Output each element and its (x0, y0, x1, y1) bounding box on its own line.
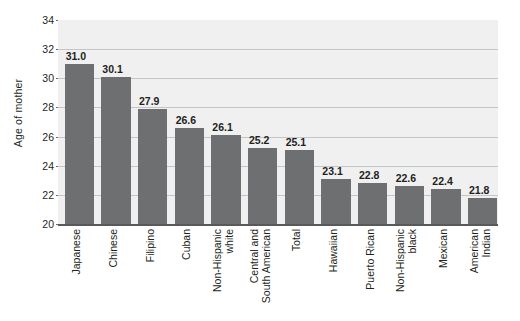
bars-layer: 31.030.127.926.626.125.225.123.122.822.6… (58, 20, 498, 224)
x-axis-label: Chinese (95, 227, 132, 321)
bar-value-label: 22.8 (359, 170, 379, 181)
y-axis-ticks: 2022242628303234 (22, 0, 54, 240)
y-tick-label: 28 (22, 102, 54, 112)
x-axis-label-text: Cuban (180, 229, 192, 260)
x-axis-label-text: Total (290, 229, 302, 251)
bar[interactable] (175, 128, 204, 224)
x-axis-label: Puerto Rican (351, 227, 388, 321)
y-tick-label: 30 (22, 73, 54, 83)
bar-value-label: 26.6 (176, 115, 196, 126)
bar[interactable] (65, 64, 94, 224)
x-axis-label-text: Puerto Rican (364, 229, 376, 290)
x-axis-label-text: Filipino (144, 229, 156, 262)
bar-value-label: 27.9 (139, 96, 159, 107)
bar[interactable] (358, 183, 387, 224)
y-tick-label: 22 (22, 190, 54, 200)
bar[interactable] (321, 179, 350, 224)
bar-value-label: 31.0 (66, 51, 86, 62)
bar-value-label: 30.1 (102, 64, 122, 75)
x-axis-label: Cuban (168, 227, 205, 321)
bar-value-label: 23.1 (322, 166, 342, 177)
x-axis-label-text: Hawaiian (327, 229, 339, 272)
bar[interactable] (395, 186, 424, 224)
x-axis-label: Non-Hispanicblack (388, 227, 425, 321)
bar[interactable] (431, 189, 460, 224)
bar-chart: Age of mother 2022242628303234 31.030.12… (0, 0, 520, 321)
x-axis-label-text: Central andSouth American (248, 229, 272, 303)
y-tick-label: 32 (22, 44, 54, 54)
x-axis-label: Mexican (425, 227, 462, 321)
x-axis-label: Total (278, 227, 315, 321)
x-axis-label-text: Mexican (437, 229, 449, 268)
bar-value-label: 25.1 (286, 137, 306, 148)
y-tick-label: 24 (22, 161, 54, 171)
bar[interactable] (468, 198, 497, 224)
x-axis-label: Japanese (58, 227, 95, 321)
bar[interactable] (248, 148, 277, 224)
bar-value-label: 25.2 (249, 135, 269, 146)
x-axis-label: Central andSouth American (241, 227, 278, 321)
x-axis-label-text: AmericanIndian (468, 229, 492, 273)
x-axis-label-text: Chinese (107, 229, 119, 268)
x-axis-label: AmericanIndian (461, 227, 498, 321)
y-tick-label: 20 (22, 219, 54, 229)
bar[interactable] (285, 150, 314, 224)
x-axis-label-text: Non-Hispanicwhite (211, 229, 235, 292)
bar[interactable] (211, 135, 240, 224)
x-axis-label: Filipino (131, 227, 168, 321)
x-axis-line (58, 224, 498, 226)
bar[interactable] (101, 77, 130, 224)
bar-value-label: 22.4 (432, 176, 452, 187)
bar-value-label: 22.6 (396, 173, 416, 184)
x-axis-label: Hawaiian (315, 227, 352, 321)
x-axis-label-text: Japanese (70, 229, 82, 275)
x-axis-label-text: Non-Hispanicblack (394, 229, 418, 292)
y-tick-label: 34 (22, 15, 54, 25)
y-tick-label: 26 (22, 132, 54, 142)
bar[interactable] (138, 109, 167, 224)
bar-value-label: 26.1 (212, 122, 232, 133)
x-axis-label: Non-Hispanicwhite (205, 227, 242, 321)
bar-value-label: 21.8 (469, 185, 489, 196)
x-axis-labels: JapaneseChineseFilipinoCubanNon-Hispanic… (58, 227, 498, 321)
